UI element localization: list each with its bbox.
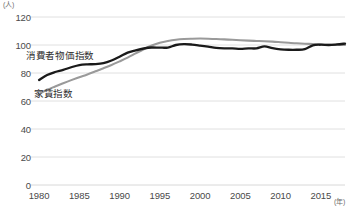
series-label-rent: 家賃指数 xyxy=(34,86,73,100)
series-label-cpi: 消費者物価指数 xyxy=(26,48,94,62)
plot-area xyxy=(0,0,353,219)
gridlines xyxy=(31,17,345,185)
rent-index-line xyxy=(39,39,345,94)
line-chart: (人) (年) 020406080100120 1980198519901995… xyxy=(0,0,353,219)
